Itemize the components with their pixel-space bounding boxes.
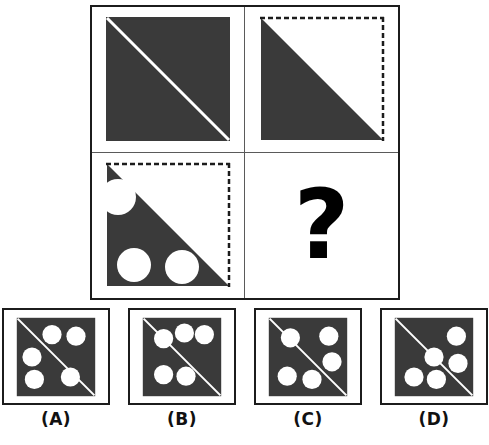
matrix-cell-4-missing[interactable]: ?: [245, 153, 398, 299]
matrix-cell-3[interactable]: [92, 153, 245, 299]
matrix-cell-2[interactable]: [245, 7, 398, 153]
figure-option-d: [394, 317, 474, 397]
figure-option-b: [142, 317, 222, 397]
option-a-label: (A): [2, 409, 110, 429]
figure-full-square-diagonal: [104, 15, 232, 143]
figure-triangle-three-circles: [104, 161, 232, 289]
answer-options-row: (A): [0, 308, 489, 445]
option-d-box[interactable]: [380, 308, 488, 405]
option-c-label: (C): [254, 409, 362, 429]
answer-option-a[interactable]: (A): [2, 308, 110, 429]
question-mark-icon: ?: [294, 182, 350, 268]
matrix-frame: ?: [90, 5, 400, 300]
option-b-box[interactable]: [128, 308, 236, 405]
figure-option-c: [268, 317, 348, 397]
matrix-grid: ?: [92, 7, 398, 298]
matrix-cell-1[interactable]: [92, 7, 245, 153]
answer-option-b[interactable]: (B): [128, 308, 236, 429]
figure-option-a: [16, 317, 96, 397]
answer-option-d[interactable]: (D): [380, 308, 488, 429]
option-b-label: (B): [128, 409, 236, 429]
option-c-box[interactable]: [254, 308, 362, 405]
option-d-label: (D): [380, 409, 488, 429]
figure-triangle-dashed: [258, 15, 386, 143]
answer-option-c[interactable]: (C): [254, 308, 362, 429]
option-a-box[interactable]: [2, 308, 110, 405]
